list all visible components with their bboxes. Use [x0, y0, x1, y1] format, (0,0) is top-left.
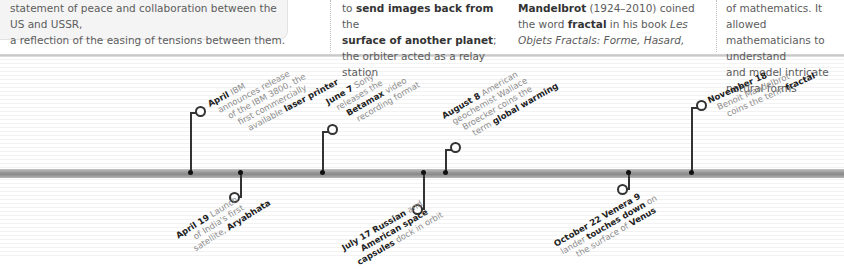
summary-card-mandelbrot: Mandelbrot (1924–2010) coined the word f… — [518, 0, 696, 52]
timeline-stem — [691, 113, 693, 173]
card-text-line: of mathematics. It allowed — [726, 0, 844, 32]
timeline-stem — [190, 119, 192, 173]
card-text-line: a reflection of the easing of tensions b… — [10, 32, 287, 48]
event-circle-icon — [327, 124, 338, 135]
event-circle-icon — [617, 184, 628, 195]
event-circle-icon — [195, 106, 206, 117]
summary-card-fractals: of mathematics. It allowed mathematician… — [716, 0, 844, 52]
card-text-line: the word fractal in his book Les — [518, 16, 696, 32]
summary-card-peace: statement of peace and collaboration bet… — [0, 0, 288, 40]
card-text-line: mathematicians to understand — [726, 32, 844, 64]
timeline-marker — [188, 170, 193, 175]
timeline-marker — [238, 170, 243, 175]
timeline-marker — [320, 170, 325, 175]
card-text-line: to send images back from the — [342, 0, 512, 32]
summary-card-venera: to send images back from the surface of … — [330, 0, 512, 52]
timeline-stem — [322, 137, 324, 173]
timeline-marker — [443, 170, 448, 175]
timeline-marker — [626, 170, 631, 175]
event-circle-icon — [696, 100, 707, 111]
card-text-line: surface of another planet; — [342, 32, 512, 48]
timeline-marker — [421, 170, 426, 175]
card-text-line: Mandelbrot (1924–2010) coined — [518, 0, 696, 16]
card-text-line: statement of peace and collaboration bet… — [10, 0, 287, 32]
timeline-marker — [689, 170, 694, 175]
card-text-line: Objets Fractals: Forme, Hasard, — [518, 32, 696, 48]
